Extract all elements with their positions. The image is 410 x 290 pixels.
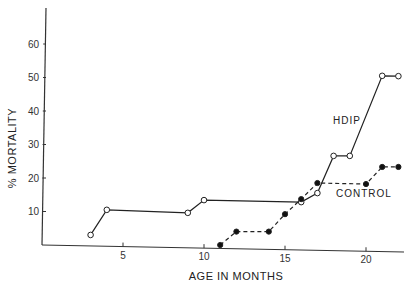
y-tick-label: 60	[28, 39, 40, 50]
series-layer	[88, 73, 401, 248]
data-point	[201, 197, 207, 203]
series-line	[220, 167, 398, 245]
series-label-hdip: HDIP	[333, 115, 361, 126]
data-point	[104, 207, 110, 213]
data-point	[331, 153, 337, 159]
data-point	[379, 73, 385, 79]
x-axis-title: AGE IN MONTHS	[189, 270, 284, 282]
x-tick-label: 15	[279, 253, 291, 264]
series-label-control: CONTROL	[336, 188, 392, 199]
x-tick-label: 20	[360, 254, 372, 265]
x-tick-label: 5	[120, 250, 126, 261]
y-tick-label: 20	[28, 173, 40, 184]
data-point	[88, 232, 94, 238]
y-tick-label: 10	[28, 206, 40, 217]
data-point	[218, 242, 223, 247]
x-tick-label: 10	[198, 251, 210, 262]
data-point	[315, 190, 321, 196]
data-point	[282, 212, 287, 217]
data-point	[185, 210, 191, 216]
data-point	[315, 180, 320, 185]
data-point	[234, 229, 239, 234]
data-point	[396, 164, 401, 169]
y-tick-label: 30	[28, 139, 40, 150]
data-point	[299, 197, 304, 202]
data-point	[266, 229, 271, 234]
axes: 1020304050605101520	[28, 8, 404, 265]
y-axis-title: % MORTALITY	[6, 108, 18, 188]
series-hdip	[88, 73, 401, 238]
series-control	[218, 164, 401, 247]
data-point	[380, 164, 385, 169]
data-point	[363, 181, 368, 186]
data-point	[396, 73, 402, 79]
y-tick-label: 50	[28, 72, 40, 83]
data-point	[347, 153, 353, 159]
y-tick-label: 40	[28, 106, 40, 117]
mortality-chart: 1020304050605101520 % MORTALITY AGE IN M…	[0, 0, 410, 290]
